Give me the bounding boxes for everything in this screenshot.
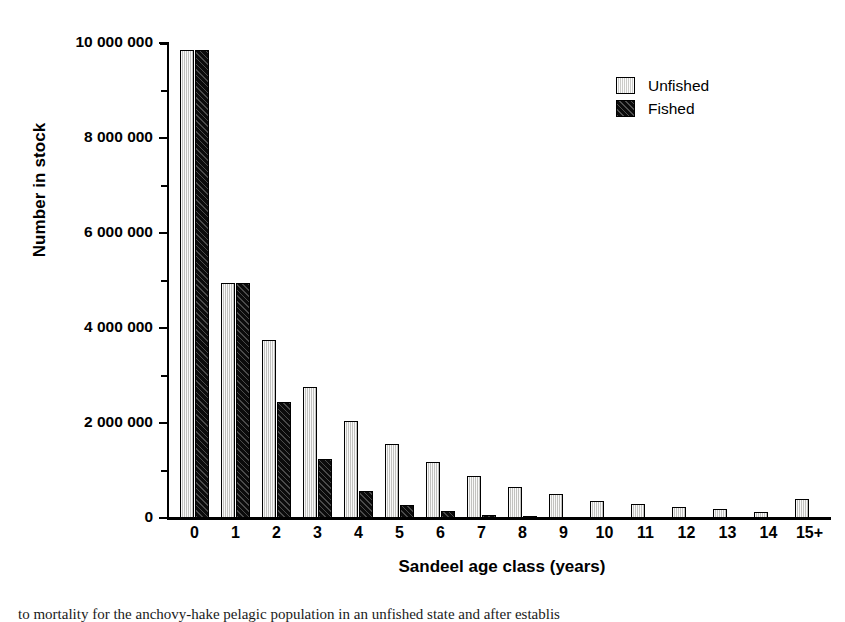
figure-caption-cropped: to mortality for the anchovy-hake pelagi…: [0, 608, 845, 622]
y-axis-tick-minor: [161, 90, 169, 92]
x-axis-tick-label-4: 4: [338, 524, 379, 542]
bar-unfished-age-8: [508, 487, 523, 518]
y-axis-tick-minor: [161, 280, 169, 282]
bar-unfished-age-5: [385, 444, 400, 518]
bar-unfished-age-4: [344, 421, 359, 518]
x-axis-tick-label-0: 0: [174, 524, 215, 542]
legend-swatch-fished: [616, 100, 635, 117]
x-axis-tick-label-12: 12: [666, 524, 707, 542]
bar-unfished-age-0: [180, 50, 195, 518]
x-axis-line: [167, 517, 831, 520]
bar-unfished-age-2: [262, 340, 277, 518]
bar-fished-age-4: [359, 491, 374, 518]
legend-label-unfished: Unfished: [648, 77, 709, 95]
x-axis-tick-label-3: 3: [297, 524, 338, 542]
y-axis-tick-major: [159, 137, 169, 139]
y-axis-tick-label: 10 000 000: [13, 33, 153, 51]
x-axis-tick-label-1: 1: [215, 524, 256, 542]
bar-unfished-age-11: [631, 504, 646, 518]
bar-unfished-age-3: [303, 387, 318, 518]
bar-fished-age-3: [318, 459, 333, 518]
y-axis-tick-major: [159, 422, 169, 424]
x-axis-tick-label-13: 13: [707, 524, 748, 542]
bar-unfished-age-9: [549, 494, 564, 518]
x-axis-tick-label-5: 5: [379, 524, 420, 542]
x-axis-tick-label-2: 2: [256, 524, 297, 542]
bar-unfished-age-1: [221, 283, 236, 518]
x-axis-tick-label-11: 11: [625, 524, 666, 542]
bar-unfished-age-6: [426, 462, 441, 518]
y-axis-tick-label: 2 000 000: [13, 413, 153, 431]
legend-swatch-unfished: [616, 77, 635, 94]
y-axis-tick-label: 8 000 000: [13, 128, 153, 146]
x-axis-tick-label-8: 8: [502, 524, 543, 542]
y-axis-tick-label: 4 000 000: [13, 318, 153, 336]
bar-fished-age-2: [277, 402, 292, 518]
x-axis-tick-label-9: 9: [543, 524, 584, 542]
x-axis-title: Sandeel age class (years): [174, 557, 830, 577]
y-axis-tick-label: 0: [13, 508, 153, 526]
x-axis-tick-label-15plus: 15+: [789, 524, 830, 542]
legend-item-unfished: Unfished: [616, 74, 709, 97]
bar-unfished-age-10: [590, 501, 605, 518]
x-axis-tick-label-10: 10: [584, 524, 625, 542]
y-axis-tick-major: [159, 232, 169, 234]
x-axis-tick-label-6: 6: [420, 524, 461, 542]
y-axis-tick-minor: [161, 470, 169, 472]
bar-unfished-age-7: [467, 476, 482, 518]
bar-fished-age-1: [236, 283, 251, 518]
y-axis-tick-label: 6 000 000: [13, 223, 153, 241]
y-axis-tick-major: [159, 327, 169, 329]
x-axis-tick-label-14: 14: [748, 524, 789, 542]
bar-unfished-age-15plus: [795, 499, 810, 518]
y-axis-tick-minor: [161, 185, 169, 187]
y-axis-tick-labels: 02 000 0004 000 0006 000 0008 000 00010 …: [0, 0, 153, 560]
legend-item-fished: Fished: [616, 97, 709, 120]
y-axis-tick-major: [159, 42, 169, 44]
x-axis-tick-label-7: 7: [461, 524, 502, 542]
chart-legend: Unfished Fished: [616, 74, 709, 120]
plot-area: [174, 43, 830, 518]
figure-caption-text: to mortality for the anchovy-hake pelagi…: [18, 608, 560, 622]
chart-figure: Number in stock 02 000 0004 000 0006 000…: [0, 0, 845, 622]
legend-label-fished: Fished: [648, 100, 695, 118]
y-axis-tick-minor: [161, 375, 169, 377]
bar-fished-age-0: [195, 50, 210, 518]
